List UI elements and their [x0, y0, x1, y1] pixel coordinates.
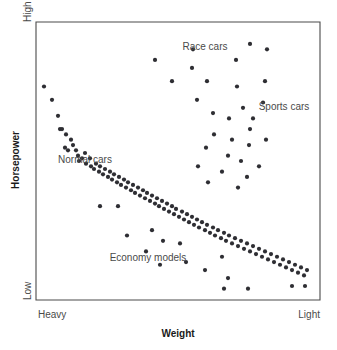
data-point	[97, 170, 101, 174]
data-point	[92, 167, 96, 171]
x-axis-tick-light: Light	[298, 309, 320, 320]
data-point	[236, 244, 240, 248]
data-point	[230, 138, 234, 142]
data-point	[124, 186, 128, 190]
data-point	[257, 164, 261, 168]
data-point	[239, 159, 243, 163]
annotation-sports-cars: Sports cars	[259, 101, 310, 112]
data-point	[213, 233, 217, 237]
data-point	[303, 284, 307, 288]
data-point	[116, 204, 120, 208]
data-point	[263, 249, 267, 253]
data-point	[145, 191, 149, 195]
data-point	[230, 241, 234, 245]
data-point	[220, 170, 224, 174]
data-point	[246, 287, 250, 291]
data-point	[119, 183, 123, 187]
data-point	[162, 207, 166, 211]
data-point	[305, 268, 309, 272]
data-point	[157, 204, 161, 208]
data-point	[185, 212, 189, 216]
data-point	[150, 193, 154, 197]
data-point	[122, 178, 126, 182]
data-point	[216, 228, 220, 232]
scatter-plot-figure: Race carsSports carsNormal carsEconomy m…	[0, 0, 337, 350]
y-axis-tick-low: Low	[22, 281, 33, 300]
data-point	[200, 220, 204, 224]
data-point	[302, 273, 306, 277]
data-point	[299, 265, 303, 269]
data-point	[197, 225, 201, 229]
data-point	[284, 265, 288, 269]
annotation-race-cars: Race cars	[182, 41, 227, 52]
data-point	[155, 196, 159, 200]
data-point	[187, 220, 191, 224]
data-point	[206, 180, 210, 184]
data-point	[222, 231, 226, 235]
y-axis-title: Horsepower	[10, 131, 21, 189]
data-point	[160, 199, 164, 203]
data-point	[170, 204, 174, 208]
data-point	[180, 209, 184, 213]
data-point	[192, 223, 196, 227]
data-point	[287, 260, 291, 264]
data-point	[226, 276, 230, 280]
data-point	[205, 79, 209, 83]
data-point	[71, 143, 75, 147]
data-point	[74, 148, 78, 152]
data-point	[222, 287, 226, 291]
data-point	[190, 215, 194, 219]
data-point	[248, 127, 252, 131]
figure-background	[0, 0, 337, 350]
data-point	[242, 247, 246, 251]
data-point	[196, 164, 200, 168]
data-point	[220, 255, 224, 259]
data-point	[136, 186, 140, 190]
data-point	[233, 236, 237, 240]
data-point	[174, 207, 178, 211]
data-point	[64, 132, 68, 136]
data-point	[138, 193, 142, 197]
annotation-economy-models: Economy models	[110, 252, 187, 263]
data-point	[153, 201, 157, 205]
data-point	[177, 215, 181, 219]
data-point	[110, 178, 114, 182]
data-point	[115, 180, 119, 184]
data-point	[293, 263, 297, 267]
data-point	[150, 228, 154, 232]
data-point	[251, 244, 255, 248]
data-point	[167, 209, 171, 213]
data-point	[212, 132, 216, 136]
data-point	[101, 172, 105, 176]
data-point	[251, 116, 255, 120]
data-point	[161, 239, 165, 243]
chart-canvas: Race carsSports carsNormal carsEconomy m…	[0, 0, 337, 350]
data-point	[224, 239, 228, 243]
data-point	[129, 188, 133, 192]
data-point	[275, 255, 279, 259]
annotation-normal-cars: Normal cars	[58, 154, 112, 165]
data-point	[236, 186, 240, 190]
data-point	[269, 252, 273, 256]
data-point	[227, 233, 231, 237]
data-point	[117, 175, 121, 179]
data-point	[158, 263, 162, 267]
data-point	[290, 268, 294, 272]
data-point	[211, 111, 215, 115]
data-point	[281, 257, 285, 261]
data-point	[60, 127, 64, 131]
data-point	[235, 84, 239, 88]
data-point	[263, 79, 267, 83]
data-point	[245, 241, 249, 245]
data-point	[208, 231, 212, 235]
data-point	[257, 247, 261, 251]
data-point	[56, 114, 60, 118]
data-point	[98, 204, 102, 208]
data-point	[172, 212, 176, 216]
x-axis-title: Weight	[161, 328, 195, 339]
data-point	[106, 175, 110, 179]
data-point	[131, 183, 135, 187]
data-point	[241, 106, 245, 110]
data-point	[108, 170, 112, 174]
data-point	[227, 116, 231, 120]
